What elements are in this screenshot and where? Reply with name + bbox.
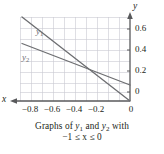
figure-caption-line-2: −1 ≤ x ≤ 0 <box>0 132 164 143</box>
x-axis-label: x <box>2 94 6 104</box>
curve-label-y2: y2 <box>22 52 29 63</box>
y-tick-label-1: 0.4 <box>135 44 146 54</box>
x-tick-label-4: 0 <box>111 104 151 114</box>
y-tick-label-0: 0.6 <box>135 23 146 33</box>
x-tick-label-3: −0.2 <box>76 104 116 114</box>
y-tick-label-2: 0.2 <box>135 65 146 75</box>
y-axis-label: y <box>133 1 137 11</box>
y-axis-arrowhead <box>127 12 133 19</box>
grid-vertical <box>20 17 119 101</box>
graph-figure: y1 y2 y x −0.8 −0.6 −0.4 −0.2 0 0.6 0.4 … <box>0 0 164 154</box>
y-tick-label-3: 0 <box>135 86 140 96</box>
x-axis-arrowhead <box>10 98 17 104</box>
curve-label-y1: y1 <box>36 26 43 37</box>
